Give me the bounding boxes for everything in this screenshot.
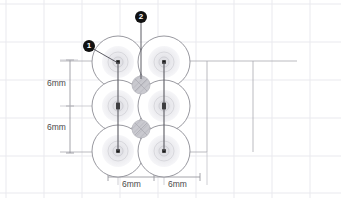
dimension-label-horizontal-right: 6mm: [168, 180, 187, 189]
technical-drawing-canvas: 1 2 6mm 6mm 6mm 6mm: [0, 0, 341, 198]
dimension-label-vertical-lower: 6mm: [47, 123, 66, 132]
callout-badge-1[interactable]: 1: [83, 40, 95, 52]
dimension-label-horizontal-left: 6mm: [122, 180, 141, 189]
drawing-svg: [0, 0, 341, 198]
dimension-label-vertical-upper: 6mm: [47, 79, 66, 88]
callout-badge-2[interactable]: 2: [135, 11, 147, 23]
hatched-circle-lower: [132, 120, 150, 138]
